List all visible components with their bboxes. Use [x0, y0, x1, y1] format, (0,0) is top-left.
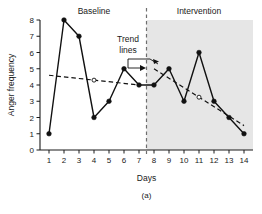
x-tick-label: 11: [195, 156, 204, 165]
x-tick-label: 13: [225, 156, 234, 165]
figure-container: 012345678 1234567891011121314 Baseline I…: [0, 0, 262, 214]
data-point: [197, 50, 202, 55]
y-tick-label: 1: [30, 130, 35, 139]
trend-midpoint-marker: [197, 95, 201, 99]
trend-lines-annotation-line2: lines: [119, 45, 136, 55]
x-tick-label: 7: [137, 156, 142, 165]
trend-lines-annotation-line1: Trend: [117, 34, 139, 44]
phase-label-baseline: Baseline: [78, 6, 111, 16]
anger-frequency-chart: 012345678 1234567891011121314 Baseline I…: [0, 0, 262, 214]
y-tick-label: 8: [30, 16, 35, 25]
data-point: [152, 83, 157, 88]
x-tick-label: 2: [62, 156, 67, 165]
y-axis-title: Anger frequency: [6, 53, 16, 116]
x-tick-label: 10: [180, 156, 189, 165]
y-axis-tick-labels: 012345678: [30, 16, 35, 155]
y-tick-label: 0: [30, 146, 35, 155]
data-point: [182, 99, 187, 104]
x-tick-label: 4: [92, 156, 97, 165]
y-tick-label: 3: [30, 97, 35, 106]
x-tick-label: 9: [167, 156, 172, 165]
data-point: [107, 99, 112, 104]
x-tick-label: 3: [77, 156, 82, 165]
data-point: [77, 34, 82, 39]
data-point: [47, 131, 52, 136]
y-tick-label: 2: [30, 114, 35, 123]
data-point: [62, 18, 67, 23]
x-axis-title: Days: [137, 173, 156, 183]
data-point: [92, 115, 97, 120]
arrowhead-baseline: [140, 65, 146, 71]
data-point: [167, 66, 172, 71]
intervention-shading: [147, 20, 254, 150]
data-point: [212, 99, 217, 104]
data-point: [242, 131, 247, 136]
x-axis-tick-labels: 1234567891011121314: [47, 156, 249, 165]
data-point: [227, 115, 232, 120]
x-tick-label: 6: [122, 156, 127, 165]
x-tick-label: 14: [240, 156, 249, 165]
figure-caption: (a): [142, 191, 152, 200]
trend-midpoint-marker: [92, 78, 96, 82]
y-tick-label: 7: [30, 32, 35, 41]
x-tick-label: 1: [47, 156, 52, 165]
x-tick-label: 8: [152, 156, 157, 165]
x-tick-label: 12: [210, 156, 219, 165]
x-tick-label: 5: [107, 156, 112, 165]
y-tick-label: 4: [30, 81, 35, 90]
phase-label-intervention: Intervention: [177, 6, 222, 16]
data-point: [122, 66, 127, 71]
y-tick-label: 6: [30, 49, 35, 58]
y-tick-label: 5: [30, 65, 35, 74]
data-point: [137, 83, 142, 88]
